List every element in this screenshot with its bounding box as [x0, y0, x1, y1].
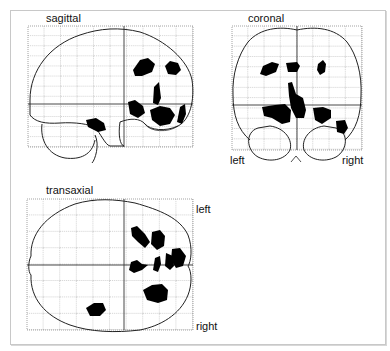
sagittal-panel: sagittal [28, 12, 193, 163]
transaxial-left-label: left [196, 203, 211, 215]
coronal-left-label: left [230, 154, 245, 166]
transaxial-panel: transaxial left right [27, 184, 217, 332]
glass-brain-figure: sagittal coronal left right [0, 0, 390, 351]
coronal-label: coronal [248, 12, 284, 24]
transaxial-right-label: right [196, 320, 217, 332]
coronal-panel: coronal left right [230, 12, 363, 166]
coronal-brainstem [291, 156, 301, 162]
coronal-right-label: right [342, 154, 363, 166]
transaxial-label: transaxial [46, 184, 93, 196]
sagittal-label: sagittal [46, 12, 81, 24]
